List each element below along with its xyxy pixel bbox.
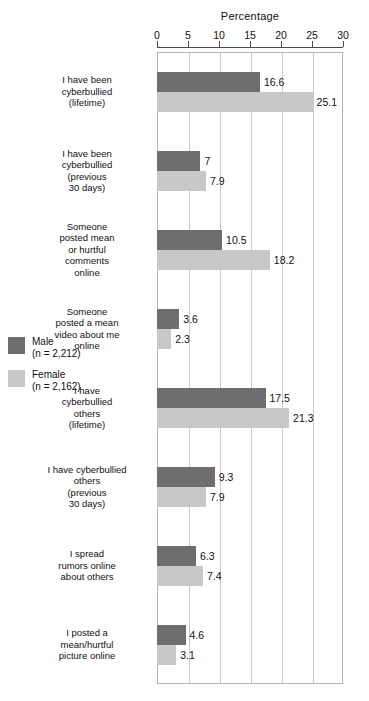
x-axis-tick-label: 30 bbox=[337, 29, 349, 41]
bar-value-label: 9.3 bbox=[219, 467, 234, 487]
bar-value-label: 25.1 bbox=[317, 92, 337, 112]
x-axis-tick-label: 20 bbox=[275, 29, 287, 41]
bar-male bbox=[157, 546, 196, 566]
cyberbullying-bar-chart: Percentage 051015202530 I have beencyber… bbox=[0, 0, 369, 701]
bar-value-label: 7.9 bbox=[210, 171, 225, 191]
bar-value-label: 16.6 bbox=[264, 72, 284, 92]
x-axis-tick bbox=[343, 41, 344, 47]
bar-female bbox=[157, 171, 206, 191]
legend-label: Male(n = 2,212) bbox=[32, 336, 81, 360]
bar-value-label: 10.5 bbox=[226, 230, 246, 250]
bar-female bbox=[157, 250, 270, 270]
x-axis-tick-label: 5 bbox=[185, 29, 191, 41]
x-axis-tick bbox=[219, 41, 220, 47]
bar-female bbox=[157, 408, 289, 428]
chart-title: Percentage bbox=[157, 10, 343, 22]
bar-value-label: 4.6 bbox=[190, 625, 205, 645]
bar-value-label: 6.3 bbox=[200, 546, 215, 566]
bar-value-label: 7.4 bbox=[207, 566, 222, 586]
legend-item-female: Female(n = 2,162) bbox=[8, 369, 88, 393]
bar-value-label: 2.3 bbox=[175, 329, 190, 349]
legend-swatch-male bbox=[8, 337, 25, 354]
bar-male bbox=[157, 151, 200, 171]
category-label: I have cyberbulliedothers(previous30 day… bbox=[28, 464, 146, 510]
bar-male bbox=[157, 72, 260, 92]
bar-value-label: 3.1 bbox=[180, 645, 195, 665]
x-axis-line bbox=[157, 47, 343, 48]
bar-male bbox=[157, 309, 179, 329]
bar-female bbox=[157, 566, 203, 586]
bar-value-label: 18.2 bbox=[274, 250, 294, 270]
chart-legend: Male(n = 2,212)Female(n = 2,162) bbox=[8, 336, 88, 402]
category-label: I have beencyberbullied(previous30 days) bbox=[28, 148, 146, 194]
bar-male bbox=[157, 467, 215, 487]
bar-male bbox=[157, 388, 266, 408]
x-axis-tick bbox=[312, 41, 313, 47]
bar-value-label: 3.6 bbox=[183, 309, 198, 329]
legend-sample-size: (n = 2,162) bbox=[32, 381, 81, 393]
bar-female bbox=[157, 645, 176, 665]
bar-female bbox=[157, 92, 313, 112]
bar-value-label: 7.9 bbox=[210, 487, 225, 507]
bars-layer: 16.625.177.910.518.23.62.317.521.39.37.9… bbox=[157, 52, 343, 684]
category-label: Someoneposted meanor hurtfulcommentsonli… bbox=[28, 221, 146, 279]
bar-male bbox=[157, 230, 222, 250]
category-label: I posted amean/hurtfulpicture online bbox=[28, 627, 146, 662]
x-axis-tick bbox=[250, 41, 251, 47]
x-axis-tick-label: 25 bbox=[306, 29, 318, 41]
x-axis-tick-label: 10 bbox=[213, 29, 225, 41]
category-label: I spreadrumors onlineabout others bbox=[28, 548, 146, 583]
bar-value-label: 7 bbox=[204, 151, 210, 171]
x-axis-tick-label: 15 bbox=[244, 29, 256, 41]
legend-sample-size: (n = 2,212) bbox=[32, 348, 81, 360]
legend-swatch-female bbox=[8, 370, 25, 387]
x-axis-tick bbox=[281, 41, 282, 47]
bar-value-label: 17.5 bbox=[270, 388, 290, 408]
category-label: I have beencyberbullied(lifetime) bbox=[28, 74, 146, 109]
bar-female bbox=[157, 329, 171, 349]
legend-item-male: Male(n = 2,212) bbox=[8, 336, 88, 360]
x-axis-tick-label: 0 bbox=[154, 29, 160, 41]
bar-value-label: 21.3 bbox=[293, 408, 313, 428]
bar-female bbox=[157, 487, 206, 507]
bar-male bbox=[157, 625, 186, 645]
x-axis-tick bbox=[157, 41, 158, 47]
x-axis-tick bbox=[188, 41, 189, 47]
legend-label: Female(n = 2,162) bbox=[32, 369, 81, 393]
